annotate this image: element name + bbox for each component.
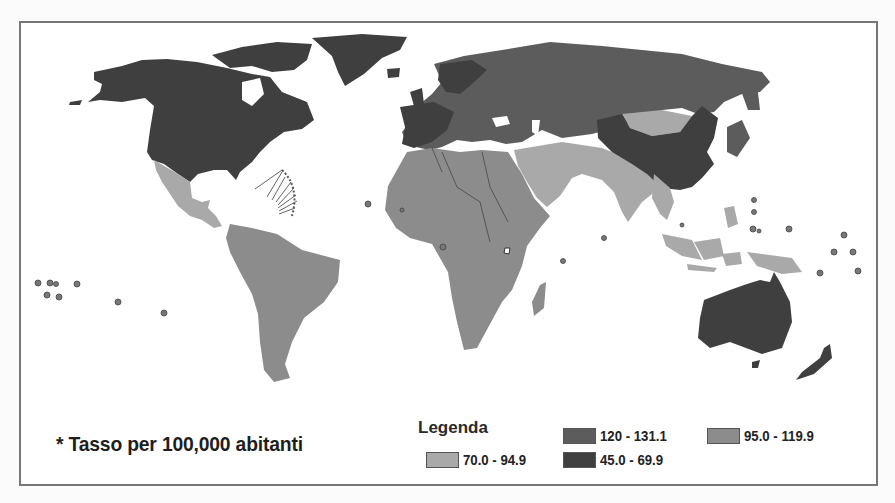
legend-item-120-131: 120 - 131.1 xyxy=(563,427,676,444)
region-south-america xyxy=(226,224,340,382)
region-philippines xyxy=(724,206,738,228)
region-australia xyxy=(698,272,792,354)
legend-label: 95.0 - 119.9 xyxy=(744,427,814,444)
region-indonesia xyxy=(662,234,802,274)
region-madagascar xyxy=(532,282,546,316)
legend-swatch xyxy=(563,452,596,468)
legend-item-70-94: 70.0 - 94.9 xyxy=(426,451,535,468)
rate-footnote: * Tasso per 100,000 abitanti xyxy=(56,432,303,456)
map-figure-frame xyxy=(19,21,878,486)
legend-swatch xyxy=(426,452,459,468)
legend-swatch xyxy=(563,428,596,444)
legend-item-95-119: 95.0 - 119.9 xyxy=(707,427,823,444)
legend-label: 45.0 - 69.9 xyxy=(600,451,663,468)
region-uk xyxy=(410,88,424,106)
region-greenland xyxy=(312,34,407,86)
region-arctic-islands xyxy=(212,42,312,72)
region-kamchatka xyxy=(740,84,760,110)
legend-swatch xyxy=(707,428,740,444)
region-lake-victoria xyxy=(504,248,510,254)
region-north-america xyxy=(88,59,314,182)
legend-title: Legenda xyxy=(418,418,488,438)
region-tasmania xyxy=(752,360,760,368)
caribbean-inset-lines xyxy=(255,170,297,216)
world-choropleth-map xyxy=(21,23,876,484)
region-iceland xyxy=(387,68,400,78)
region-new-zealand xyxy=(796,344,832,380)
legend-label: 120 - 131.1 xyxy=(600,427,667,444)
legend-label: 70.0 - 94.9 xyxy=(463,451,526,468)
region-aleutians xyxy=(69,100,82,105)
region-japan xyxy=(727,120,750,157)
legend-item-45-69: 45.0 - 69.9 xyxy=(563,451,672,468)
